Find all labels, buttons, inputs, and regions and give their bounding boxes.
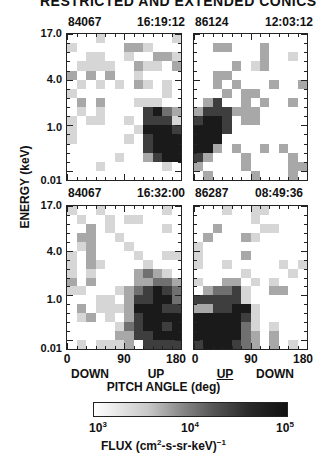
heatmap-cell [162,98,172,107]
heatmap-cell [269,171,278,180]
heatmap-cell [288,286,297,295]
x-tick-mark [307,343,308,349]
heatmap-cell [96,98,106,107]
heatmap-cell [143,98,153,107]
heatmap-cell [213,52,222,61]
x-tick-mark [115,206,116,209]
heatmap-cell [222,286,231,295]
y-tick-mark [301,206,307,207]
x-tick-mark [143,206,144,209]
y-tick-mark [304,304,307,305]
heatmap-cell [260,98,269,107]
heatmap-cell [241,171,250,180]
x-tick-mark [298,34,299,37]
heatmap-cell [298,251,307,260]
x-tick-mark [279,346,280,349]
y-tick-mark [67,134,70,135]
heatmap-cell [213,162,222,171]
heatmap-cell [203,340,212,349]
x-tick-mark [86,346,87,349]
heatmap-cell [269,304,278,313]
heatmap-cell [251,224,260,233]
x-tick-mark [251,34,252,40]
heatmap-cell [288,153,297,162]
heatmap-cell [143,52,153,61]
heatmap-cell [203,224,212,233]
heatmap-cell [105,171,115,180]
heatmap-cell [105,304,115,313]
heatmap-cell [251,89,260,98]
heatmap-cell [251,331,260,340]
heatmap-cell [105,71,115,80]
x-tick-mark [162,34,163,37]
colorbar-tick-1e4: 104 [181,420,199,435]
heatmap-cell [115,107,125,116]
heatmap-cell [153,107,163,116]
heatmap-cell [162,313,172,322]
y-tick-mark [178,349,181,350]
heatmap-cell [203,278,212,287]
heatmap-cell [232,80,241,89]
heatmap-cell [288,89,297,98]
heatmap-cell [232,89,241,98]
y-tick-mark [67,71,70,72]
x-tick-mark [213,177,214,180]
x-tick-mark [288,177,289,180]
heatmap-cell [241,71,250,80]
y-tick-mark [194,180,197,181]
heatmap-cell [279,162,288,171]
y-tick-mark [67,331,70,332]
heatmap-cell [67,233,77,242]
heatmap-cell [153,278,163,287]
heatmap-cell [260,331,269,340]
heatmap-cell [288,144,297,153]
heatmap-cell [143,295,153,304]
heatmap-cell [222,107,231,116]
y-tick-mark [67,43,70,44]
heatmap-cell [153,153,163,162]
x-tick-mark [279,177,280,180]
heatmap-cell [143,171,153,180]
heatmap-cell [222,215,231,224]
heatmap-cell [298,98,307,107]
x-tick-mark [124,34,125,40]
y-tick-mark [194,162,197,163]
heatmap-cell [124,215,134,224]
heatmap-cell [162,153,172,162]
heatmap-cell [203,134,212,143]
heatmap-cell [279,313,288,322]
heatmap-cell [134,71,144,80]
x-tick-mark [115,346,116,349]
heatmap-cell [232,304,241,313]
heatmap-cell [194,162,203,171]
y-tick-mark [304,224,307,225]
heatmap-cell [124,206,134,215]
heatmap-cell [260,251,269,260]
direction-up-right: UP [217,367,234,381]
heatmap-cell [241,98,250,107]
heatmap-cell [77,295,87,304]
heatmap-cell [143,116,153,125]
heatmap-cell [96,71,106,80]
x-tick-mark [115,34,116,37]
heatmap-cell [222,144,231,153]
heatmap-cell [86,295,96,304]
heatmap-cell [298,313,307,322]
y-tick-mark [194,242,197,243]
y-tick-mark [304,71,307,72]
heatmap-cell [105,43,115,52]
heatmap-cell [269,251,278,260]
y-tick-mark [194,43,197,44]
heatmap-cell [162,89,172,98]
heatmap-cell [67,206,77,215]
heatmap-cell [288,340,297,349]
heatmap-cell [115,153,125,162]
x-tick-mark [232,34,233,37]
y-tick-mark [67,278,70,279]
heatmap-cell [232,260,241,269]
x-tick-mark [232,346,233,349]
x-tick-mark [181,343,182,349]
heatmap-cell [153,269,163,278]
y-tick-mark [194,171,200,172]
heatmap-cell [134,144,144,153]
